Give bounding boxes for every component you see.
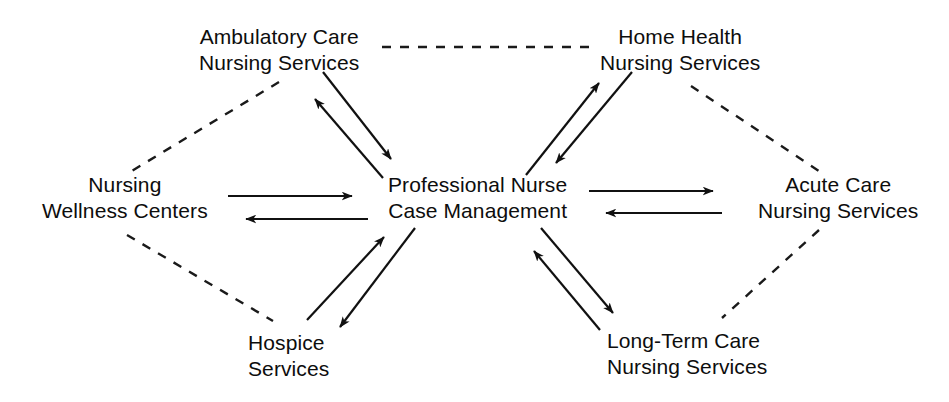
diagram-canvas: Ambulatory Care Nursing Services Home He… — [0, 0, 949, 402]
edge-center-ambulatory — [315, 72, 391, 178]
arrow-longterm-to-center — [534, 251, 600, 330]
arrow-ambulatory-to-center — [323, 72, 391, 159]
node-label-line-2: Wellness Centers — [42, 198, 208, 224]
edge-center-longterm — [534, 228, 613, 330]
node-label-line-1: Home Health — [600, 24, 760, 50]
node-ambulatory-care-nursing-services[interactable]: Ambulatory Care Nursing Services — [199, 24, 359, 76]
node-label-line-2: Services — [248, 356, 329, 382]
node-label-line-1: Hospice — [248, 330, 329, 356]
node-label-line-2: Nursing Services — [199, 50, 359, 76]
dashed-edge-home-health-acute — [691, 86, 819, 171]
edge-center-hospice — [307, 228, 415, 327]
dashed-edge-acute-longterm — [722, 230, 819, 318]
node-home-health-nursing-services[interactable]: Home Health Nursing Services — [600, 24, 760, 76]
node-label-line-1: Acute Care — [758, 172, 918, 198]
node-label-line-1: Professional Nurse — [388, 172, 567, 198]
node-acute-care-nursing-services[interactable]: Acute Care Nursing Services — [758, 172, 918, 224]
dashed-edge-wellness-hospice — [127, 235, 273, 321]
arrow-center-to-longterm — [541, 228, 613, 313]
dashed-edge-ambulatory-wellness — [130, 82, 279, 172]
node-label-line-2: Case Management — [388, 198, 567, 224]
node-label-line-2: Nursing Services — [758, 198, 918, 224]
arrow-center-to-ambulatory — [315, 99, 383, 178]
edge-center-home-health — [526, 72, 632, 175]
node-professional-nurse-case-management[interactable]: Professional Nurse Case Management — [388, 172, 567, 224]
node-label-line-1: Nursing — [42, 172, 208, 198]
arrow-home-health-to-center — [556, 72, 632, 163]
node-long-term-care-nursing-services[interactable]: Long-Term Care Nursing Services — [607, 328, 767, 380]
node-label-line-1: Ambulatory Care — [199, 24, 359, 50]
arrow-center-to-home-health — [526, 83, 599, 175]
edge-center-acute — [589, 191, 722, 213]
node-label-line-2: Nursing Services — [607, 354, 767, 380]
node-label-line-2: Nursing Services — [600, 50, 760, 76]
edge-center-wellness — [228, 196, 368, 219]
node-nursing-wellness-centers[interactable]: Nursing Wellness Centers — [42, 172, 208, 224]
node-hospice-services[interactable]: Hospice Services — [248, 330, 329, 382]
node-label-line-1: Long-Term Care — [607, 328, 767, 354]
arrow-hospice-to-center — [307, 237, 384, 320]
